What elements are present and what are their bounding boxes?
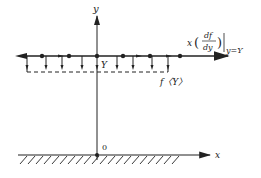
svg-text:(: ( — [194, 35, 199, 50]
left-arrow-icon — [15, 53, 27, 59]
svg-text:dy: dy — [203, 43, 213, 52]
line-dot — [178, 54, 182, 58]
level-label: Y — [101, 60, 108, 70]
svg-text:): ) — [217, 35, 222, 50]
svg-text:x: x — [187, 38, 192, 48]
x-axis-label: x — [215, 150, 220, 160]
upper-expression: x ( df dy ) y=Y — [187, 31, 243, 55]
upper-line — [15, 53, 228, 59]
line-dot — [95, 54, 99, 58]
line-dot — [121, 54, 125, 58]
svg-text:df: df — [204, 31, 214, 40]
function-label: f〈Y〉 — [159, 77, 187, 87]
line-dot — [40, 54, 44, 58]
svg-text:y=Y: y=Y — [225, 46, 243, 55]
line-dot — [67, 54, 71, 58]
x-axis: x 0 — [18, 143, 220, 160]
wall-hatching — [20, 156, 179, 164]
y-axis: y — [92, 3, 99, 160]
diagram-canvas: y — [0, 0, 261, 178]
y-axis-label: y — [92, 3, 99, 14]
origin-label: 0 — [102, 143, 107, 152]
